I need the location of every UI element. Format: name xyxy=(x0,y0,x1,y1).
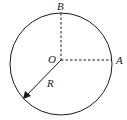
radius-arrow-line xyxy=(25,60,61,97)
label-o: O xyxy=(48,53,56,65)
label-r: R xyxy=(46,77,54,89)
label-b: B xyxy=(57,0,64,12)
circle-diagram: B O A R xyxy=(0,0,127,120)
label-a: A xyxy=(115,54,123,66)
